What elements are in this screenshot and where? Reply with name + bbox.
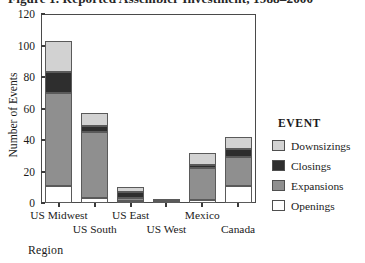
legend-item: Closings bbox=[272, 159, 364, 172]
bar-group bbox=[225, 14, 252, 203]
y-tick-mark bbox=[41, 76, 45, 78]
bar-segment-closings bbox=[81, 126, 108, 132]
legend-item: Openings bbox=[272, 199, 364, 212]
legend-label: Closings bbox=[291, 160, 331, 172]
bar-group bbox=[189, 14, 216, 203]
y-tick-label: 80 bbox=[24, 71, 42, 83]
bar-segment-downsizings bbox=[189, 153, 216, 166]
bar-segment-closings bbox=[45, 72, 72, 92]
x-axis-label-us-midwest: US Midwest bbox=[30, 209, 87, 221]
y-tick-mark bbox=[41, 13, 45, 15]
legend-entries: DownsizingsClosingsExpansionsOpenings bbox=[272, 139, 364, 212]
y-tick-mark bbox=[41, 202, 45, 204]
y-tick-mark bbox=[41, 45, 45, 47]
y-tick-label: 20 bbox=[24, 166, 42, 178]
bar-segment-closings bbox=[117, 192, 144, 198]
legend-label: Expansions bbox=[291, 180, 344, 192]
legend-swatch-openings bbox=[272, 200, 285, 211]
y-tick-label: 120 bbox=[18, 8, 41, 20]
legend-title: EVENT bbox=[278, 117, 364, 130]
x-tick-mark bbox=[165, 203, 167, 207]
bar-segment-downsizings bbox=[45, 41, 72, 73]
bar-group bbox=[117, 14, 144, 203]
bar-group bbox=[45, 14, 72, 203]
chart-legend: EVENT DownsizingsClosingsExpansionsOpeni… bbox=[272, 117, 364, 219]
bar-segment-expansions bbox=[45, 93, 72, 186]
bar-segment-downsizings bbox=[81, 113, 108, 126]
x-tick-mark bbox=[237, 203, 239, 207]
bar-segment-openings bbox=[45, 186, 72, 203]
bar-segment-expansions bbox=[81, 132, 108, 198]
y-tick-label: 40 bbox=[24, 134, 42, 146]
bar-segment-closings bbox=[153, 199, 180, 201]
x-tick-mark bbox=[130, 203, 132, 207]
x-tick-mark bbox=[201, 203, 203, 207]
plot-area: 120100806040200 bbox=[41, 14, 256, 203]
y-tick-label: 100 bbox=[18, 40, 41, 52]
legend-swatch-expansions bbox=[272, 180, 285, 191]
x-axis-label-mexico: Mexico bbox=[185, 209, 220, 221]
y-tick-mark bbox=[41, 171, 45, 173]
x-axis-label-us-west: US West bbox=[147, 223, 187, 235]
bar-segment-downsizings bbox=[117, 187, 144, 192]
y-tick-mark bbox=[41, 108, 45, 110]
y-tick-label: 60 bbox=[24, 103, 42, 115]
bar-group bbox=[81, 14, 108, 203]
x-axis-label-us-east: US East bbox=[112, 209, 149, 221]
y-axis-title: Number of Events bbox=[6, 60, 20, 170]
x-axis-label-us-south: US South bbox=[73, 223, 117, 235]
y-axis-title-text: Number of Events bbox=[7, 72, 20, 157]
legend-label: Openings bbox=[291, 200, 335, 212]
bar-segment-closings bbox=[225, 149, 252, 157]
bar-series-layer bbox=[41, 14, 256, 203]
y-tick-mark bbox=[41, 139, 45, 141]
bar-segment-expansions bbox=[225, 157, 252, 185]
bar-segment-expansions bbox=[117, 198, 144, 201]
bar-segment-closings bbox=[189, 165, 216, 168]
bar-segment-downsizings bbox=[225, 137, 252, 150]
legend-item: Downsizings bbox=[272, 139, 364, 152]
x-tick-mark bbox=[58, 203, 60, 207]
x-tick-mark bbox=[94, 203, 96, 207]
x-axis-title: Region bbox=[28, 243, 63, 258]
bar-segment-expansions bbox=[189, 168, 216, 200]
bar-segment-openings bbox=[225, 186, 252, 203]
legend-swatch-downsizings bbox=[272, 140, 285, 151]
bar-group bbox=[153, 14, 180, 203]
y-tick-label: 0 bbox=[29, 197, 41, 209]
legend-item: Expansions bbox=[272, 179, 364, 192]
figure-title: Figure 1. Reported Assembler Investment,… bbox=[8, 0, 313, 7]
legend-swatch-closings bbox=[272, 160, 285, 171]
legend-label: Downsizings bbox=[291, 140, 350, 152]
x-axis-label-canada: Canada bbox=[221, 223, 255, 235]
